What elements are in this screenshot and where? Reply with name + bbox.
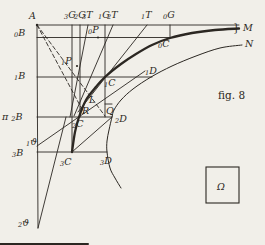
label-A: A [28, 10, 36, 21]
scanned-figure-page: A3G2G3T1G2T1T0G}MN0B1Bπ 2B1ϑ3B2ϑ0P1P0C1C… [0, 0, 265, 245]
label-pi2B: π 2B [1, 111, 22, 123]
label-1C: 1C [104, 77, 116, 89]
label-N: N [244, 38, 254, 49]
point-1P [76, 65, 78, 67]
curve-solution-curve-C [72, 29, 239, 153]
label-0P: 0P [88, 24, 99, 36]
label-Q: Q [106, 105, 114, 116]
line-theta1-tangent [37, 71, 145, 146]
figure-canvas: A3G2G3T1G2T1T0G}MN0B1Bπ 2B1ϑ3B2ϑ0P1P0C1C… [0, 0, 265, 245]
label-1D: 1D [145, 65, 157, 77]
label-0B: 0B [14, 27, 25, 39]
label-3C: 3C [60, 156, 72, 168]
label-0G: 0G [163, 9, 175, 21]
line-dashed-chord-A-R [37, 25, 84, 113]
line-theta2-tangent [38, 117, 66, 228]
label-2D: 2D [114, 113, 127, 125]
label-1T: 1T [141, 9, 152, 21]
line-axis-vertical [37, 25, 38, 228]
label-caption: fig. 8 [218, 89, 245, 101]
label-2C: 2C [71, 118, 84, 130]
label-M: M [242, 22, 253, 33]
label-1B: 1B [14, 70, 25, 82]
label-L: L [88, 94, 95, 105]
label-1theta: 1ϑ [26, 136, 37, 148]
label-2theta: 2ϑ [17, 217, 29, 229]
label-1P: 1P [61, 55, 72, 67]
label-3D: 3D [100, 155, 112, 167]
point-0P [97, 36, 99, 38]
label-omega: Ω [216, 181, 225, 192]
label-brace: } [233, 21, 240, 34]
label-R: R [81, 105, 89, 116]
label-3B: 3B [12, 147, 23, 159]
label-0C: 0C [158, 38, 170, 50]
point-A [36, 24, 38, 26]
